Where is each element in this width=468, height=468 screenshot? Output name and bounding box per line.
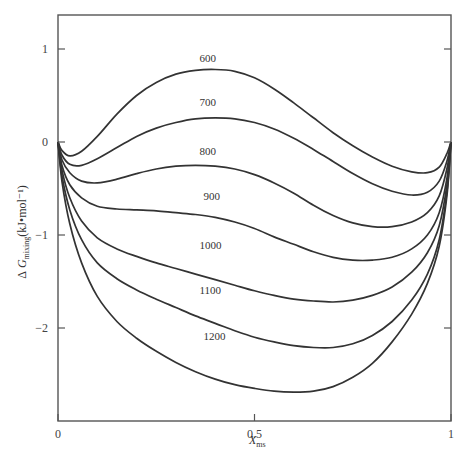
curve-800 [58,142,451,227]
curve-700 [58,118,451,195]
curve-labels: 600700800900100011001200 [199,52,225,342]
curve-label-1100: 1100 [199,284,221,296]
curve-label-900: 900 [203,190,220,202]
curve-label-800: 800 [199,145,216,157]
curve-label-1000: 1000 [199,239,222,251]
curve-1100 [58,142,451,348]
y-axis-title: Δ Gmixing(kJ•mol⁻¹) [15,185,31,279]
axis-ticks: 10−1−200.51 [35,42,454,441]
x-tick-label: 1 [448,427,454,441]
plot-border [58,15,451,421]
y-tick-label: −1 [35,228,48,242]
curve-900 [58,142,451,260]
plot-frame [58,15,451,421]
y-tick-label: −2 [35,321,48,335]
curves [58,69,451,392]
curve-label-600: 600 [199,52,216,64]
x-tick-label: 0 [55,427,61,441]
y-tick-label: 1 [42,42,48,56]
curve-label-1200: 1200 [203,330,226,342]
y-tick-label: 0 [42,135,48,149]
mixing-free-energy-chart: 600700800900100011001200 10−1−200.51 Xms… [0,0,468,468]
curve-label-700: 700 [199,96,216,108]
curve-600 [58,69,451,173]
